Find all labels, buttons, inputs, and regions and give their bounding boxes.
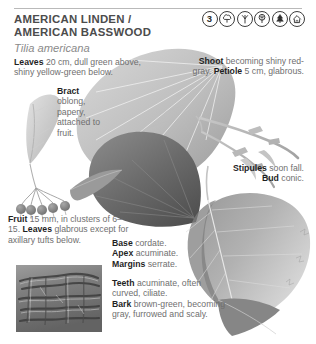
branching-form-icon[interactable] xyxy=(237,11,253,27)
caption-text-base: cordate. xyxy=(133,238,167,248)
caption-stipules-bud: Stipules soon fall. Bud conic. xyxy=(226,163,304,184)
caption-text-petiole: 5 cm, glabrous. xyxy=(242,66,304,76)
caption-teeth-bark: Teeth acuminate, often curved, ciliate. … xyxy=(112,278,230,320)
caption-shoot-petiole: Shoot becoming shiny red-gray. Petiole 5… xyxy=(184,56,304,77)
rounded-crown-tree-icon[interactable] xyxy=(254,11,270,27)
caption-term-leaves-glabrous: Leaves xyxy=(23,224,52,234)
caption-term-bark: Bark xyxy=(112,299,131,309)
caption-text-bud: conic. xyxy=(279,173,304,183)
dark-leaf-photo xyxy=(89,132,201,227)
conifer-tree-icon[interactable] xyxy=(272,11,288,27)
caption-term-shoot: Shoot xyxy=(199,56,224,66)
caption-term-margins: Margins xyxy=(112,259,145,269)
caption-term-bract: Bract xyxy=(57,86,79,96)
header-rule xyxy=(14,8,302,9)
title-block: AMERICAN LINDEN / AMERICAN BASSWOOD Tili… xyxy=(14,13,214,55)
common-name-line-2: AMERICAN BASSWOOD xyxy=(14,26,151,38)
fruit-nutlets xyxy=(16,201,70,215)
caption-term-leaves: Leaves xyxy=(14,57,43,67)
scientific-name: Tilia americana xyxy=(14,41,214,55)
caption-leaves-size: Leaves 20 cm, dull green above, shiny ye… xyxy=(14,57,152,78)
bark-photo xyxy=(16,265,102,332)
caption-term-apex: Apex xyxy=(112,248,133,258)
number-badge-3-icon[interactable]: 3 xyxy=(202,11,218,27)
caption-term-stipules: Stipules xyxy=(233,163,267,173)
caption-term-petiole: Petiole xyxy=(214,66,243,76)
broadleaf-tree-icon[interactable] xyxy=(219,11,235,27)
field-guide-page: AMERICAN LINDEN / AMERICAN BASSWOOD Tili… xyxy=(0,0,316,344)
fruit-subtending-leaf xyxy=(70,170,122,201)
caption-text-bract: oblong, papery, attached to fruit. xyxy=(57,96,100,137)
caption-term-teeth: Teeth xyxy=(112,278,135,288)
number-badge-label: 3 xyxy=(207,14,212,24)
common-name-line-1: AMERICAN LINDEN / xyxy=(14,13,132,25)
caption-bract: Bract oblong, papery, attached to fruit. xyxy=(57,86,105,138)
page-title: AMERICAN LINDEN / AMERICAN BASSWOOD xyxy=(14,13,214,40)
caption-text-stipules: soon fall. xyxy=(267,163,304,173)
caption-text-apex: acuminate. xyxy=(133,248,178,258)
caption-term-fruit: Fruit xyxy=(8,214,27,224)
caption-term-base: Base xyxy=(112,238,133,248)
caption-text-margins: serrate. xyxy=(145,259,177,269)
caption-term-bud: Bud xyxy=(262,173,279,183)
bract-illustration xyxy=(26,94,60,188)
caption-base-apex-margins: Base cordate. Apex acuminate. Margins se… xyxy=(112,238,222,269)
symbol-legend-row: 3 xyxy=(202,11,306,27)
shelter-house-icon[interactable] xyxy=(289,11,305,27)
